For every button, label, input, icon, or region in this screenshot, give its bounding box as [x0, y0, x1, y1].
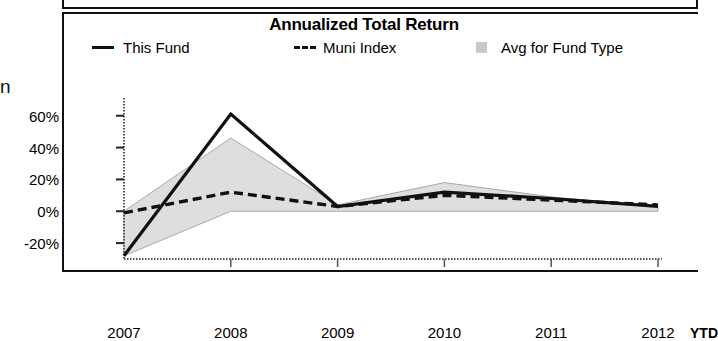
area-swatch-icon — [476, 42, 487, 53]
x-tick-label: 2007 — [84, 325, 164, 340]
y-tick-label: 40% — [0, 141, 59, 156]
avg-fund-type-band — [124, 138, 658, 256]
legend-item-avg-for-fund-type: Avg for Fund Type — [476, 36, 623, 58]
legend-label-muni-index: Muni Index — [323, 39, 396, 56]
legend-item-this-fund: This Fund — [92, 36, 190, 58]
y-tick-label: 20% — [0, 172, 59, 187]
chart-canvas — [98, 76, 663, 331]
y-tick-label: -20% — [0, 236, 59, 251]
y-tick-label: 60% — [0, 109, 59, 124]
x-tick-label: 2012 — [618, 325, 698, 340]
y-tick-label: 0% — [0, 204, 59, 219]
chart-title: Annualized Total Return — [64, 15, 664, 35]
top-frame-fragment — [62, 0, 698, 9]
legend-item-muni-index: Muni Index — [294, 36, 396, 58]
x-tick-label: 2008 — [191, 325, 271, 340]
x-tick-label: 2011 — [511, 325, 591, 340]
solid-line-swatch-icon — [92, 46, 114, 49]
x-axis-ytd-label: YTD — [690, 326, 718, 340]
dashed-line-swatch-icon — [294, 46, 316, 49]
legend-label-avg-for-fund-type: Avg for Fund Type — [501, 39, 623, 56]
x-tick-label: 2010 — [404, 325, 484, 340]
x-tick-label: 2009 — [298, 325, 378, 340]
plot-area: 60%40%20%0%-20% 200720082009201020112012… — [98, 76, 663, 259]
clipped-left-text: n — [0, 77, 18, 96]
chart-panel: Annualized Total Return This Fund Muni I… — [62, 12, 698, 272]
chart-legend: This Fund Muni Index Avg for Fund Type — [64, 36, 700, 58]
legend-label-this-fund: This Fund — [123, 39, 190, 56]
